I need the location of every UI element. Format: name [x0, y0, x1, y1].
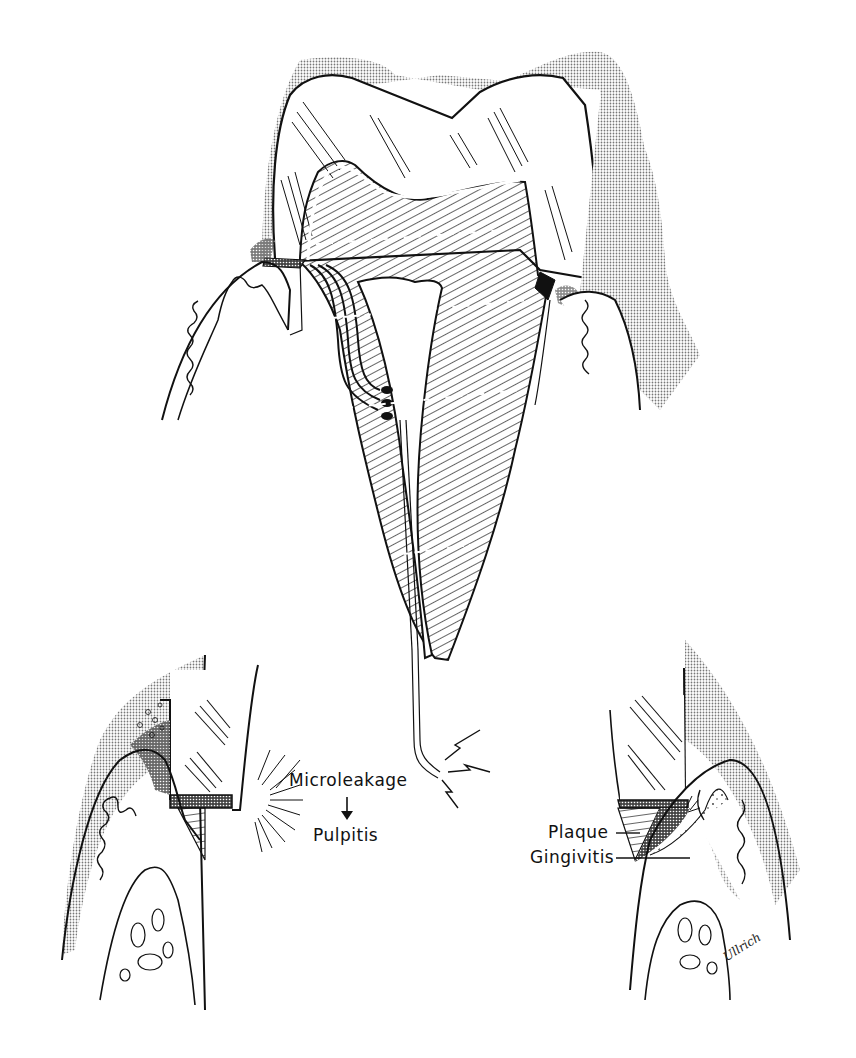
microleakage-inset: [62, 655, 303, 1010]
gingivitis-inset: [610, 640, 800, 1000]
tooth-diagram: [0, 0, 856, 1058]
label-pulpitis: Pulpitis: [313, 825, 378, 845]
label-plaque: Plaque: [548, 822, 608, 842]
pain-bolt-icon: [442, 730, 490, 808]
left-gingiva-top: [162, 262, 290, 420]
label-gingivitis: Gingivitis: [530, 847, 614, 867]
microleakage-arrow-icon: [341, 797, 353, 820]
alveolar-bone-right: [645, 901, 730, 1000]
label-microleakage: Microleakage: [289, 770, 408, 790]
dentin: [300, 161, 548, 660]
alveolar-bone: [100, 867, 195, 1005]
pulpitis-burst-icon: [255, 750, 303, 852]
crown-piece: [170, 670, 232, 800]
